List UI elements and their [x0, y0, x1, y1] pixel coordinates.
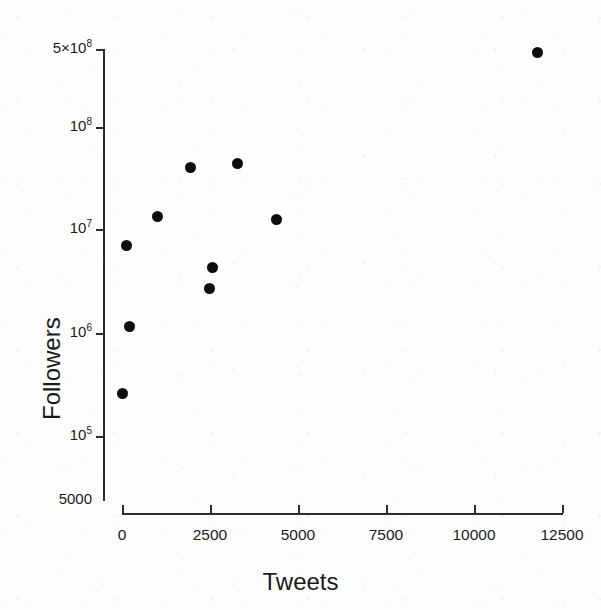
data-point [532, 47, 543, 58]
x-axis-line [122, 513, 563, 515]
data-point [185, 162, 196, 173]
data-point [271, 214, 282, 225]
x-tick-mark [210, 505, 212, 513]
y-tick-mark [96, 333, 103, 335]
x-tick-mark [298, 505, 300, 513]
x-tick-label: 12500 [522, 527, 601, 543]
x-tick-mark [474, 505, 476, 513]
data-point [232, 158, 243, 169]
x-tick-mark [122, 505, 124, 513]
x-tick-mark [562, 505, 564, 513]
y-tick-mark [96, 49, 103, 51]
y-tick-label: 5000 [59, 491, 92, 506]
y-tick-mark [96, 127, 103, 129]
x-tick-label: 0 [82, 527, 162, 543]
y-tick-label: 106 [70, 324, 92, 339]
y-tick-label: 105 [70, 427, 92, 442]
x-axis-title: Tweets [0, 568, 601, 596]
paper-texture [0, 0, 601, 610]
data-point [121, 240, 132, 251]
y-tick-mark [96, 436, 103, 438]
data-point [117, 388, 128, 399]
data-point [207, 262, 218, 273]
x-tick-label: 7500 [346, 527, 426, 543]
scatter-plot-figure: 5×1081081071061055000 025005000750010000… [0, 0, 601, 610]
data-point [124, 321, 135, 332]
data-point [204, 283, 215, 294]
x-tick-mark [386, 505, 388, 513]
x-tick-label: 2500 [170, 527, 250, 543]
x-tick-label: 10000 [434, 527, 514, 543]
y-tick-mark [96, 229, 103, 231]
y-axis-title: Followers [38, 20, 66, 420]
x-tick-label: 5000 [258, 527, 338, 543]
y-tick-label: 108 [70, 118, 92, 133]
y-axis-line [103, 49, 105, 501]
y-tick-label: 107 [70, 220, 92, 235]
data-point [152, 211, 163, 222]
